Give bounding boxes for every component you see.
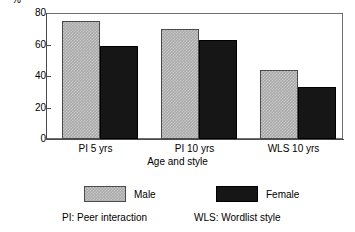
x-tick-label: WLS 10 yrs bbox=[244, 143, 343, 154]
y-tick-label: 80 bbox=[0, 8, 46, 18]
legend-label-male: Male bbox=[134, 189, 156, 200]
legend-swatch-male-icon bbox=[84, 186, 126, 202]
bar-male-wls-10-yrs bbox=[260, 70, 298, 139]
y-axis-label: % bbox=[12, 0, 21, 5]
footnote-wls: WLS: Wordlist style bbox=[194, 212, 281, 223]
legend-label-female: Female bbox=[266, 189, 299, 200]
legend-item-male: Male bbox=[84, 186, 156, 202]
y-tick-label: 60 bbox=[0, 40, 46, 50]
y-tick-label: 0 bbox=[0, 134, 46, 144]
bar-female-pi-10-yrs bbox=[199, 40, 237, 139]
bar-female-wls-10-yrs bbox=[298, 87, 336, 139]
chart-footnotes: PI: Peer interaction WLS: Wordlist style bbox=[0, 212, 355, 226]
bar-male-pi-10-yrs bbox=[161, 29, 199, 139]
bar-male-pi-5-yrs bbox=[62, 21, 100, 139]
chart-legend: Male Female bbox=[0, 186, 355, 204]
y-tick-label: 20 bbox=[0, 103, 46, 113]
x-tick-label: PI 5 yrs bbox=[46, 143, 145, 154]
x-axis-line bbox=[46, 139, 344, 140]
bar-chart-figure: % 020406080 PI 5 yrsPI 10 yrsWLS 10 yrs … bbox=[0, 0, 355, 232]
y-tick-label: 40 bbox=[0, 71, 46, 81]
x-tick-label: PI 10 yrs bbox=[145, 143, 244, 154]
bars-layer bbox=[46, 13, 343, 139]
bar-female-pi-5-yrs bbox=[100, 46, 138, 139]
legend-swatch-female-icon bbox=[216, 186, 258, 202]
x-axis-title: Age and style bbox=[0, 156, 355, 167]
legend-item-female: Female bbox=[216, 186, 299, 202]
footnote-pi: PI: Peer interaction bbox=[62, 212, 147, 223]
